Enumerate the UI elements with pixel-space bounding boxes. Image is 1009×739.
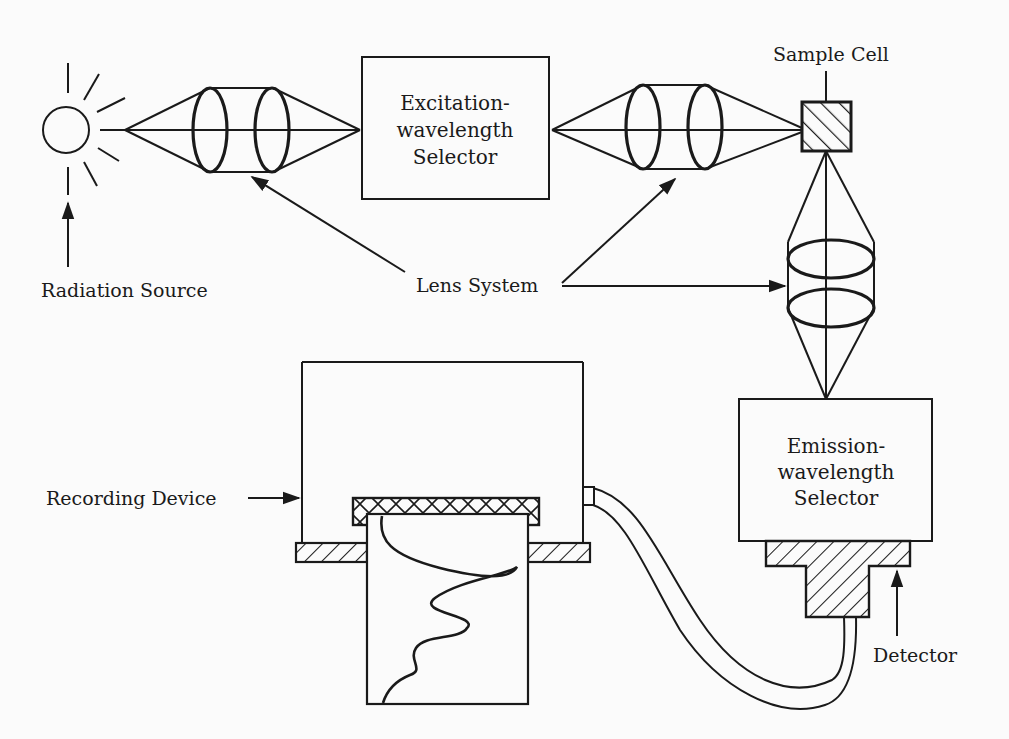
emission-label-line1: Emission- bbox=[787, 434, 886, 458]
radiation-source-label: Radiation Source bbox=[41, 279, 208, 301]
radiation-source bbox=[43, 63, 125, 195]
excitation-label-line2: wavelength bbox=[396, 118, 513, 142]
lens-system-3 bbox=[788, 151, 874, 399]
detector-label: Detector bbox=[873, 644, 958, 666]
lamp-icon bbox=[43, 107, 89, 153]
detector bbox=[766, 541, 910, 617]
lens-system-1 bbox=[125, 88, 360, 172]
emission-label-line3: Selector bbox=[794, 486, 879, 510]
excitation-label-line1: Excitation- bbox=[400, 91, 510, 115]
sample-cell-label: Sample Cell bbox=[773, 43, 889, 65]
recording-device bbox=[296, 362, 590, 704]
chart-paper[interactable] bbox=[367, 514, 528, 704]
base-left bbox=[296, 543, 367, 562]
lens-arrow-1 bbox=[252, 177, 405, 272]
emission-label-line2: wavelength bbox=[777, 460, 894, 484]
lens-arrow-2 bbox=[562, 179, 675, 283]
lens-system-2 bbox=[552, 85, 802, 169]
lens-system-label: Lens System bbox=[416, 274, 538, 296]
sample-cell bbox=[802, 71, 851, 151]
fluorometer-diagram: Radiation Source Lens System Sample Cell… bbox=[0, 0, 1009, 739]
recording-device-label: Recording Device bbox=[46, 487, 217, 509]
base-right bbox=[528, 543, 590, 562]
excitation-label-line3: Selector bbox=[413, 145, 498, 169]
